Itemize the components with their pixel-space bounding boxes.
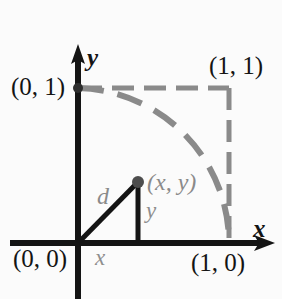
coordinate-diagram: (0, 1) y (1, 1) (x, y) d y x x (0, 0) (1… — [0, 0, 282, 299]
label-leg-y: y — [146, 199, 156, 222]
label-leg-x: x — [95, 246, 105, 269]
label-x-axis: x — [253, 216, 266, 241]
label-point-xy: (x, y) — [147, 170, 196, 194]
label-point-0-1: (0, 1) — [11, 74, 65, 99]
label-point-1-0: (1, 0) — [191, 250, 245, 275]
label-point-1-1: (1, 1) — [209, 53, 263, 78]
label-point-0-0: (0, 0) — [13, 246, 67, 271]
label-distance-d: d — [97, 184, 109, 208]
point-01-marker — [73, 83, 83, 93]
label-y-axis: y — [87, 45, 98, 70]
point-xy-marker — [132, 176, 144, 188]
